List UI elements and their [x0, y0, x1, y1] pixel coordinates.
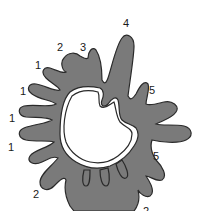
lobed-ring-diagram: 1 1 1 1 2 3 4 5 5 2 2	[0, 0, 197, 211]
lobe-label: 5	[153, 150, 159, 162]
lobe-label: 1	[8, 141, 14, 153]
lobe-label: 1	[35, 59, 41, 71]
lobe-label: 1	[9, 112, 15, 124]
lobe-label: 5	[149, 84, 155, 96]
bottom-lobe-1	[83, 170, 90, 186]
lobe-label: 1	[20, 85, 26, 97]
lobe-label: 4	[123, 17, 129, 29]
lobe-label: 3	[80, 41, 86, 53]
lobe-label: 2	[143, 205, 149, 211]
lobe-label: 2	[57, 41, 63, 53]
lobe-label: 2	[33, 188, 39, 200]
